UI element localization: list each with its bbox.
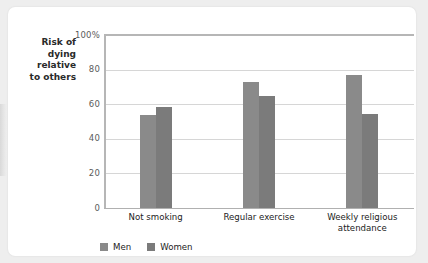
bar-women-regular-exercise[interactable] bbox=[259, 96, 275, 208]
bar-group-weekly-religious-attendance bbox=[311, 34, 414, 208]
y-tick-label-0: 0 bbox=[54, 204, 100, 213]
bar-group-regular-exercise bbox=[207, 34, 310, 208]
bar-groups bbox=[104, 34, 414, 209]
y-tick-label-60: 60 bbox=[54, 100, 100, 109]
y-axis-tick-labels: 020406080100% bbox=[54, 25, 100, 209]
bar-group-not-smoking bbox=[104, 34, 207, 208]
bar-women-weekly-religious-attendance[interactable] bbox=[362, 114, 378, 208]
y-tick-label-40: 40 bbox=[54, 134, 100, 143]
legend-label-men: Men bbox=[113, 242, 131, 252]
y-tick-label-20: 20 bbox=[54, 169, 100, 178]
bar-men-regular-exercise[interactable] bbox=[243, 82, 259, 208]
bar-men-not-smoking[interactable] bbox=[140, 115, 156, 208]
legend-item-women[interactable]: Women bbox=[147, 242, 192, 252]
chart-card: Risk of dying relative to others 0204060… bbox=[8, 7, 416, 256]
legend-swatch-women bbox=[147, 243, 155, 251]
x-axis-label-regular-exercise: Regular exercise bbox=[207, 212, 310, 223]
bar-women-not-smoking[interactable] bbox=[156, 107, 172, 208]
legend-swatch-men bbox=[100, 243, 108, 251]
page-edge-artifact bbox=[0, 104, 7, 176]
y-tick-label-80: 80 bbox=[54, 65, 100, 74]
x-axis-category-labels: Not smokingRegular exerciseWeekly religi… bbox=[104, 212, 414, 238]
x-axis-label-weekly-religious-attendance: Weekly religious attendance bbox=[311, 212, 414, 234]
y-tick-label-100pct: 100% bbox=[54, 31, 100, 40]
plot-area bbox=[104, 34, 414, 209]
bar-men-weekly-religious-attendance[interactable] bbox=[346, 75, 362, 208]
chart-legend: MenWomen bbox=[100, 242, 193, 252]
legend-label-women: Women bbox=[160, 242, 192, 252]
legend-item-men[interactable]: Men bbox=[100, 242, 131, 252]
x-axis-label-not-smoking: Not smoking bbox=[104, 212, 207, 223]
